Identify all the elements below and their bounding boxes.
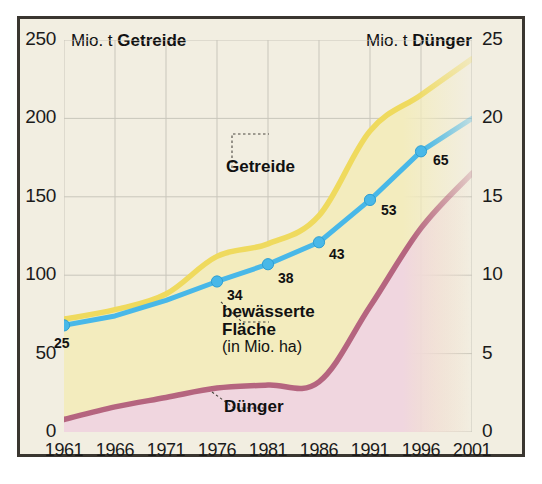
y-tick-right-5: 5 <box>482 342 528 364</box>
y-tick-right-25: 25 <box>482 28 528 50</box>
callout-bewaesserte-line1: bewässerte <box>222 303 315 321</box>
chart-figure: Mio. t Getreide Mio. t Dünger <box>0 0 542 484</box>
plot-svg <box>64 40 472 432</box>
y-tick-left-250: 250 <box>0 28 56 50</box>
y-tick-left-200: 200 <box>0 106 56 128</box>
callout-bewaesserte-flaeche: bewässerte Fläche (in Mio. ha) <box>222 303 315 356</box>
point-label-38: 38 <box>278 270 294 286</box>
callout-getreide: Getreide <box>226 158 295 176</box>
point-label-43: 43 <box>329 246 345 262</box>
y-tick-left-50: 50 <box>0 342 56 364</box>
y-tick-right-15: 15 <box>482 185 528 207</box>
point-label-65: 65 <box>433 152 449 168</box>
callout-duenger-label: Dünger <box>224 397 284 416</box>
callout-getreide-label: Getreide <box>226 157 295 176</box>
point-label-53: 53 <box>381 202 397 218</box>
y-tick-right-0: 0 <box>482 420 528 442</box>
callout-bewaesserte-line3: (in Mio. ha) <box>222 339 315 356</box>
y-tick-right-20: 20 <box>482 106 528 128</box>
callout-bewaesserte-line2: Fläche <box>222 321 315 339</box>
y-tick-left-150: 150 <box>0 185 56 207</box>
point-label-25: 25 <box>54 335 70 351</box>
y-tick-right-10: 10 <box>482 263 528 285</box>
y-tick-left-0: 0 <box>0 420 56 442</box>
point-label-34: 34 <box>227 287 243 303</box>
x-tick-2001: 2001 <box>438 440 506 461</box>
callout-duenger: Dünger <box>224 398 284 416</box>
plot-area <box>64 40 472 432</box>
y-tick-left-100: 100 <box>0 263 56 285</box>
